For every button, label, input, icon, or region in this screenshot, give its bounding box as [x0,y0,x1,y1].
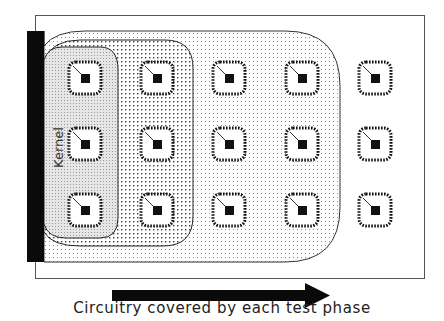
test-phase-diagram [0,0,444,321]
chip-icon [69,62,101,94]
chip-icon [213,62,245,94]
chip-icon [359,128,391,160]
chip-icon [141,62,173,94]
chip-icon [69,128,101,160]
chip-icon [213,128,245,160]
chip-icon [359,194,391,226]
chip-icon [69,194,101,226]
chip-icon [141,194,173,226]
kernel-label: Kernel [51,127,66,168]
kernel-bar [27,31,44,262]
diagram-caption: Circuitry covered by each test phase [0,299,444,317]
chip-icon [359,62,391,94]
chip-icon [286,128,318,160]
chip-icon [286,194,318,226]
chip-icon [141,128,173,160]
chip-icon [213,194,245,226]
chip-icon [286,62,318,94]
